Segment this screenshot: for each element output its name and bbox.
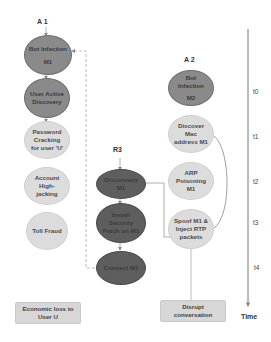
actor-a1-label: A 1: [37, 18, 48, 25]
node-bot-infection-m2: Bot Infection M2: [168, 70, 214, 106]
time-tick-t3: t3: [253, 219, 258, 226]
node-label: Install Security Patch on M1: [101, 211, 141, 235]
node-install-security-patch: Install Security Patch on M1: [96, 203, 146, 243]
node-label: Bot Infection: [29, 45, 67, 53]
node-connect-m1: Connect M1: [96, 251, 146, 285]
node-bot-infection-m1: Bot Infection M1: [24, 35, 72, 75]
node-label: Discovery: [32, 98, 62, 106]
node-user-active-discovery: User Active Discovery: [24, 78, 70, 118]
outcome-disrupt-conversation: Disrupt conversation: [160, 300, 226, 322]
node-discover-mac-address: Discover Mac address M1: [168, 115, 214, 153]
node-label: User Active: [30, 90, 64, 98]
outcome-label: Disrupt conversation: [165, 303, 221, 319]
node-label: Bot Infection: [173, 74, 209, 90]
node-label: Password Cracking for user 'U': [29, 128, 65, 152]
node-label: Disconnect M1: [101, 176, 141, 192]
time-axis-label: Time: [241, 313, 257, 320]
actor-a2-label: A 2: [184, 56, 195, 63]
node-label: ARP Poisoning M1: [173, 169, 209, 193]
node-disconnect-m1: Disconnect M1: [96, 169, 146, 199]
node-label: Spoof M1 & Inject RTP packets: [173, 217, 209, 241]
time-tick-t1: t1: [253, 133, 258, 140]
node-account-hijacking: Account High-jacking: [24, 167, 70, 205]
outcome-label: Economic loss to User U: [20, 305, 76, 321]
node-label: M2: [187, 94, 196, 102]
outcome-economic-loss: Economic loss to User U: [15, 302, 81, 324]
node-toll-fraud: Toll Fraud: [26, 212, 68, 250]
node-arp-poisoning: ARP Poisoning M1: [168, 162, 214, 200]
node-label: Toll Fraud: [32, 227, 61, 235]
node-label: Account High-jacking: [29, 174, 65, 198]
node-label: M1: [44, 58, 53, 66]
node-label: Discover Mac address M1: [173, 122, 209, 146]
node-spoof-inject-rtp: Spoof M1 & Inject RTP packets: [168, 209, 214, 249]
time-tick-t2: t2: [253, 178, 258, 185]
node-label: Connect M1: [103, 264, 138, 272]
attack-timeline-diagram: A 1 A 2 R3 Bot Infection M1 User Active …: [0, 0, 271, 342]
time-tick-t0: t0: [253, 88, 258, 95]
node-password-cracking: Password Cracking for user 'U': [24, 121, 70, 159]
actor-r3-label: R3: [113, 146, 122, 153]
time-tick-t4: t4: [254, 264, 259, 271]
